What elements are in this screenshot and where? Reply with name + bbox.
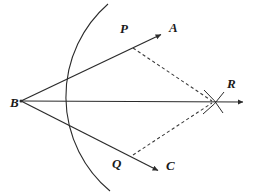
ray-bc xyxy=(21,101,158,171)
geometry-diagram: B P Q A C R xyxy=(0,0,257,192)
label-c: C xyxy=(166,158,175,173)
ray-br-bisector xyxy=(21,101,243,102)
label-a: A xyxy=(168,20,178,35)
label-p: P xyxy=(120,21,129,36)
vertex-point-b xyxy=(20,100,23,103)
compass-arc-from-b xyxy=(66,4,110,191)
compass-arc-from-p xyxy=(203,92,224,114)
geometry-canvas: B P Q A C R xyxy=(0,0,257,192)
dashed-line-pr xyxy=(133,48,212,101)
ray-ba xyxy=(21,35,161,102)
dashed-line-qr xyxy=(133,103,212,155)
label-b: B xyxy=(9,95,19,110)
label-q: Q xyxy=(112,156,122,171)
label-r: R xyxy=(226,76,236,91)
